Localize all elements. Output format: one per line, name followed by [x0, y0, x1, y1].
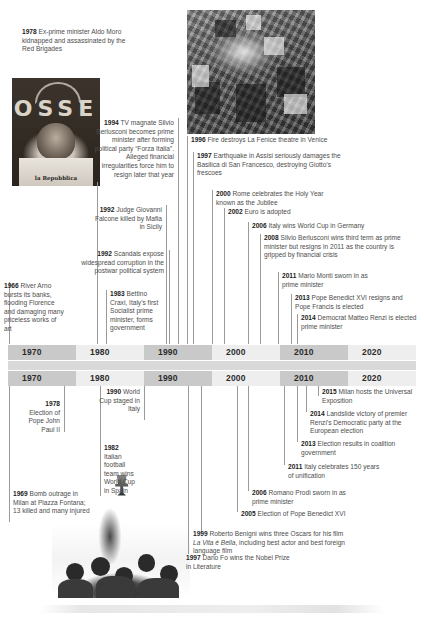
event-2008-berlusconi-third-term: 2008 Silvio Berlusconi wins third term a…: [264, 234, 412, 260]
connector-line-1969: [9, 386, 10, 522]
event-1982-world-cup-spain: 1982 Italian football team wins World Cu…: [104, 444, 140, 496]
photo-la-fenice-fire: [187, 10, 315, 134]
event-text-2014: Democrat Matteo Renzi is elected prime m…: [301, 314, 416, 330]
connector-line-2002: [224, 208, 225, 344]
event-text-2000: Rome celebrates the Holy Year known as t…: [216, 190, 323, 206]
axis-separator-band: [8, 361, 416, 370]
event-year-1996: 1996: [191, 136, 206, 143]
connector-line-2015: [318, 386, 319, 396]
event-year-2008: 2008: [264, 234, 279, 241]
tick-label-2000-top: 2000: [226, 347, 246, 358]
footer-band: [40, 605, 384, 613]
event-text-1997: Earthquake in Assisi seriously damages t…: [197, 152, 341, 176]
event-year-1966: 1966: [4, 282, 19, 289]
event-text-2014-eu: Landslide victory of premier Renzi’s Dem…: [310, 410, 407, 434]
connector-line-2011: [278, 272, 279, 344]
portrait-face-shape: [37, 123, 76, 160]
event-text-1992-scandals: Scandals expose widespread corruption in…: [81, 250, 164, 274]
event-text-2013: Pope Benedict XVI resigns and Pope Franc…: [295, 294, 403, 310]
tick-label-1990-top: 1990: [158, 347, 178, 358]
event-1997-dario-fo-nobel: 1997 Dario Fo wins the Nobel Prize in Li…: [186, 554, 296, 571]
event-2014-european-election: 2014 Landslide victory of premier Renzi’…: [310, 410, 414, 436]
shirt-shape: [19, 158, 93, 186]
connector-line-1983: [106, 290, 107, 344]
event-year-2015: 2015: [322, 388, 337, 395]
event-1996-la-fenice: 1996 Fire destroys La Fenice theatre in …: [191, 136, 391, 145]
film-title-la-vita-e-bella: La Vita è Bella: [193, 539, 235, 546]
event-1992-giovanni-falcone: 1992 Judge Giovanni Falcone killed by Ma…: [88, 206, 162, 232]
event-1990-world-cup-italy: 1990 World Cup staged in Italy: [98, 388, 140, 414]
event-text-1978-pope: Election of Pope John Paul II: [28, 409, 60, 433]
connector-line-1997: [193, 152, 194, 344]
connector-line-2008: [260, 234, 261, 344]
tick-label-2000-bottom: 2000: [226, 373, 246, 384]
connector-line-1999: [201, 386, 202, 533]
connector-line-1992b: [169, 250, 170, 344]
event-2013-pope-francis: 2013 Pope Benedict XVI resigns and Pope …: [295, 294, 419, 311]
upper-timeline-axis: 1970 1980 1990 2000 2010 2020: [8, 345, 416, 360]
event-year-2000: 2000: [216, 190, 231, 197]
event-1969-piazza-fontana-bombing: 1969 Bomb outrage in Milan at Piazza Fon…: [13, 490, 91, 516]
event-year-1982: 1982: [104, 444, 119, 451]
event-text-1978: Ex-prime minister Aldo Moro kidnapped an…: [22, 28, 125, 52]
event-2015-milan-expo: 2015 Milan hosts the Universal Expositio…: [322, 388, 414, 405]
event-2013-coalition-government: 2013 Election results in coalition gover…: [301, 440, 405, 457]
event-year-2011: 2011: [282, 272, 296, 279]
event-year-2013-coal: 2013: [301, 440, 316, 447]
event-year-2014-eu: 2014: [310, 410, 325, 417]
connector-line-2013-coal: [297, 386, 298, 442]
event-year-2013: 2013: [295, 294, 310, 301]
event-year-1992-scandals: 1992: [97, 250, 112, 257]
photo-aldo-moro-newspaper: OSSE la Repubblica: [12, 78, 100, 186]
tick-label-2010-bottom: 2010: [294, 373, 314, 384]
tick-label-1990-bottom: 1990: [158, 373, 178, 384]
event-2000-jubilee: 2000 Rome celebrates the Holy Year known…: [216, 190, 340, 207]
connector-line-2006-prodi: [248, 386, 249, 491]
event-1992-corruption-scandals: 1992 Scandals expose widespread corrupti…: [70, 250, 164, 276]
event-1966-arno-flood: 1966 River Arno bursts its banks, floodi…: [4, 282, 64, 334]
tick-label-1980-bottom: 1980: [90, 373, 110, 384]
tick-label-2020-bottom: 2020: [362, 373, 382, 384]
tick-label-2020-top: 2020: [362, 347, 382, 358]
connector-line-1992a: [166, 205, 167, 344]
event-year-1999: 1999: [193, 530, 208, 537]
event-1983-bettino-craxi: 1983 Bettino Craxi, Italy’s first Social…: [110, 290, 162, 333]
event-year-2011-unif: 2011: [288, 463, 302, 470]
event-text-2013-coal: Election results in coalition government: [301, 440, 395, 456]
event-text-1966: River Arno bursts its banks, flooding Fl…: [4, 282, 64, 332]
event-year-2006-prodi: 2006: [252, 489, 267, 496]
tick-label-2010-top: 2010: [294, 347, 314, 358]
tick-label-1980-top: 1980: [90, 347, 110, 358]
connector-line-2005: [237, 386, 238, 512]
event-year-2005: 2005: [241, 510, 256, 517]
event-1999-roberto-benigni-oscars: 1999 Roberto Benigni wins three Oscars f…: [193, 530, 345, 556]
event-text-2002: Euro is adopted: [245, 208, 291, 215]
connector-line-1990: [144, 386, 145, 420]
banner-text-osse: OSSE: [12, 96, 100, 121]
event-year-1997: 1997: [197, 152, 212, 159]
event-text-2006-prodi: Romano Prodi sworn in as prime minister: [252, 489, 346, 505]
event-year-2006: 2006: [252, 222, 267, 229]
connector-line-1996: [187, 136, 188, 344]
event-text-2008: Silvio Berlusconi wins third term as pri…: [264, 234, 401, 258]
tick-label-1970-bottom: 1970: [22, 373, 42, 384]
tick-label-1970-top: 1970: [22, 347, 42, 358]
event-2011-mario-monti: 2011 Mario Monti sworn in as prime minis…: [282, 272, 386, 289]
event-2002-euro: 2002 Euro is adopted: [228, 208, 348, 217]
event-1994-berlusconi: 1994 TV magnate Silvio Berlusconi become…: [90, 119, 174, 179]
event-2006-world-cup: 2006 Italy wins World Cup in Germany: [252, 222, 402, 231]
connector-line-1978-pope: [64, 386, 65, 432]
event-1978-pope-john-paul-ii: 1978 Election of Pope John Paul II: [18, 400, 60, 434]
event-year-1983: 1983: [110, 290, 125, 297]
connector-line-2014: [297, 314, 298, 344]
timeline-infographic: OSSE la Repubblica: [0, 0, 424, 621]
event-text-1997-fo: Dario Fo wins the Nobel Prize in Literat…: [186, 554, 290, 570]
connector-line-2000: [212, 190, 213, 344]
event-year-1990: 1990: [106, 388, 121, 395]
event-year-2002: 2002: [228, 208, 243, 215]
event-year-1978: 1978: [22, 28, 37, 35]
event-text-2005: Election of Pope Benedict XVI: [258, 510, 346, 517]
event-text-1996: Fire destroys La Fenice theatre in Venic…: [208, 136, 328, 143]
connector-line-2006: [248, 222, 249, 344]
event-text-1999-pre: Roberto Benigni wins three Oscars for hi…: [210, 530, 344, 537]
